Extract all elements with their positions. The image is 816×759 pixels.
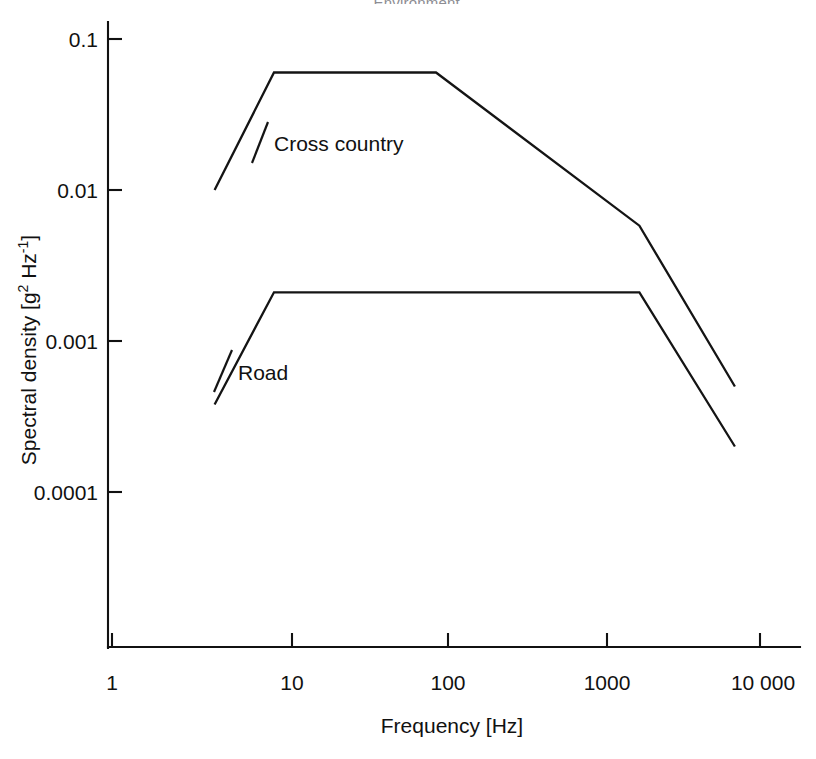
x-ticklabel-2: 100: [430, 671, 465, 694]
y-ticklabel-3: 0.0001: [34, 481, 98, 504]
chart-figure: ... Environment 0.1 0.01 0.001 0.0001: [0, 0, 816, 759]
y-axis-title-main: Spectral density [g: [17, 292, 40, 465]
y-ticklabel-2: 0.001: [45, 330, 98, 353]
y-axis-title-end: ]: [17, 235, 40, 241]
chart-title-cropped: ... Environment: [0, 0, 816, 4]
series-line-cross-country: [215, 73, 735, 387]
y-ticklabel-1: 0.01: [57, 179, 98, 202]
y-axis-title: Spectral density [g2 Hz-1]: [15, 235, 40, 465]
series-line-road: [215, 292, 735, 446]
x-ticklabel-4: 10 000: [731, 671, 795, 694]
y-axis-ticks: [108, 39, 122, 492]
axes-group: [108, 22, 800, 648]
x-axis-title: Frequency [Hz]: [381, 714, 523, 737]
spectral-density-plot: 0.1 0.01 0.001 0.0001 1 10 100 1000 10 0…: [0, 0, 816, 759]
svg-text:Spectral density [g2 Hz-1]: Spectral density [g2 Hz-1]: [15, 235, 40, 465]
series-label-cross-country: Cross country: [274, 132, 404, 155]
y-axis-title-mid: Hz: [17, 253, 40, 285]
y-axis-title-sup-g2: 2: [15, 284, 31, 292]
leader-line-road: [214, 350, 232, 392]
series-label-road: Road: [238, 361, 288, 384]
x-ticklabel-1: 10: [280, 671, 303, 694]
x-axis-ticks: [112, 633, 760, 647]
x-axis-ticklabels: 1 10 100 1000 10 000: [106, 671, 795, 694]
y-axis-ticklabels: 0.1 0.01 0.001 0.0001: [34, 28, 98, 504]
leader-line-cross-country: [252, 122, 268, 163]
x-ticklabel-0: 1: [106, 671, 118, 694]
y-axis-title-sup-hz: -1: [15, 240, 31, 253]
y-ticklabel-0: 0.1: [69, 28, 98, 51]
x-ticklabel-3: 1000: [584, 671, 631, 694]
